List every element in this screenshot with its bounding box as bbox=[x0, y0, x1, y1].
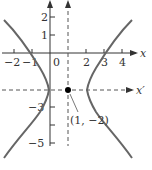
x-tick-label: 2 bbox=[83, 56, 90, 69]
y-tick-label: −5 bbox=[28, 137, 44, 150]
hyperbola-right-branch bbox=[87, 20, 132, 158]
y-tick-label: 2 bbox=[41, 11, 48, 24]
x-axis-arrow-icon bbox=[130, 50, 138, 56]
center-label: (1, −2) bbox=[70, 114, 109, 127]
hyperbola-diagram: x x′ −2 −1 0 2 3 4 2 1 −3 −5 (1, −2) bbox=[0, 0, 152, 170]
x-tick-label: −2 bbox=[4, 56, 20, 69]
x-axis-label: x bbox=[140, 47, 147, 60]
x-prime-arrow-icon bbox=[126, 87, 134, 93]
y-axis-arrow-icon bbox=[47, 0, 53, 8]
x-tick-label: 0 bbox=[53, 56, 60, 69]
y-ticks bbox=[50, 17, 55, 143]
y-prime-arrow-icon bbox=[65, 0, 71, 8]
y-tick-label: 1 bbox=[41, 29, 48, 42]
x-tick-label: 4 bbox=[119, 56, 126, 69]
center-point bbox=[65, 87, 71, 93]
x-prime-label: x′ bbox=[136, 84, 145, 97]
center-leader-line bbox=[70, 94, 78, 112]
